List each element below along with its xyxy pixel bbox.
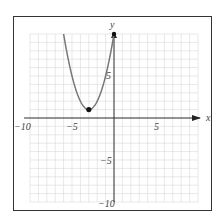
y-tick-neg5: −5 (100, 155, 112, 166)
x-tick-5: 5 (154, 121, 159, 132)
y-tick-5: 5 (106, 70, 111, 81)
endpoint-point (112, 32, 116, 36)
y-axis-label: y (109, 19, 115, 30)
x-axis (24, 115, 201, 121)
x-tick-neg5: −5 (66, 121, 78, 132)
x-axis-arrow-icon (192, 115, 201, 121)
coordinate-plane: x y −10 −5 5 5 −5 −10 (0, 0, 224, 222)
vertex-point (86, 107, 91, 112)
y-tick-neg10: −10 (98, 198, 115, 209)
x-axis-label: x (205, 112, 211, 123)
x-tick-neg10: −10 (14, 121, 31, 132)
